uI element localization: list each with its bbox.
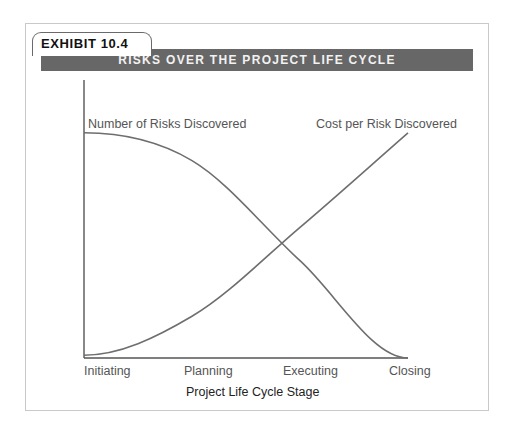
curve-number-of-risks bbox=[84, 133, 408, 358]
series-label-cost: Cost per Risk Discovered bbox=[316, 117, 457, 131]
x-tick-initiating: Initiating bbox=[84, 364, 131, 378]
x-tick-planning: Planning bbox=[184, 364, 233, 378]
curve-cost-per-risk bbox=[84, 133, 408, 355]
x-tick-executing: Executing bbox=[283, 364, 338, 378]
x-tick-closing: Closing bbox=[389, 364, 431, 378]
series-label-risks: Number of Risks Discovered bbox=[88, 117, 246, 131]
line-chart: Number of Risks Discovered Cost per Risk… bbox=[0, 0, 515, 440]
x-axis-title: Project Life Cycle Stage bbox=[186, 385, 319, 399]
